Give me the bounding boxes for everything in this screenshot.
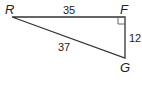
side-label-rg: 37 (58, 41, 70, 53)
side-label-fg: 12 (129, 32, 141, 44)
vertex-label-g: G (120, 60, 130, 75)
triangle-diagram: R F G 35 12 37 (0, 0, 142, 88)
side-label-rf: 35 (63, 4, 75, 16)
right-angle-marker (118, 17, 125, 24)
vertex-label-f: F (120, 2, 129, 17)
vertex-label-r: R (5, 2, 14, 17)
